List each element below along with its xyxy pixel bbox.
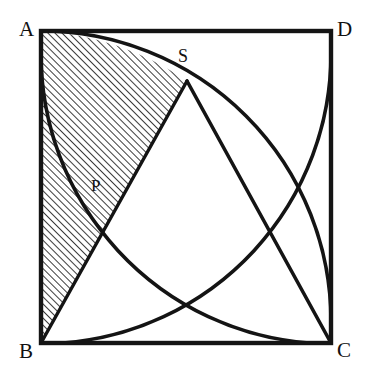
vertex-label-d: D [337, 19, 352, 40]
vertex-label-b: B [19, 341, 33, 362]
vertex-label-a: A [19, 19, 34, 40]
point-label-p: P [91, 177, 100, 194]
point-label-s: S [178, 47, 188, 65]
lune-hatch-fill [41, 31, 187, 343]
shaded-lune-region [41, 31, 187, 343]
geometry-figure: A D B C S P [0, 0, 375, 382]
vertex-label-c: C [337, 340, 351, 361]
